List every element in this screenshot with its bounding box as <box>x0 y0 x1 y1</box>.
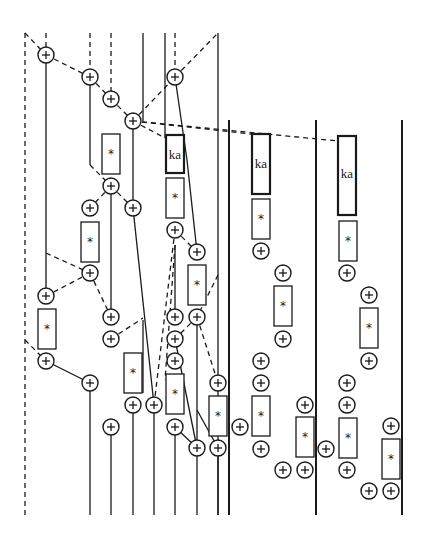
svg-text:*: * <box>130 366 136 380</box>
multiplier-block: * <box>166 374 184 414</box>
adder-node-icon <box>38 47 54 63</box>
svg-text:*: * <box>388 452 394 466</box>
adder-node-icon <box>361 353 377 369</box>
svg-text:*: * <box>215 409 221 423</box>
ka-block: ka <box>166 135 184 173</box>
svg-text:*: * <box>345 234 351 248</box>
adder-node-icon <box>339 265 355 281</box>
adder-node-icon <box>38 288 54 304</box>
adder-node-icon <box>82 69 98 85</box>
adder-node-icon <box>125 200 141 216</box>
adder-node-icon <box>189 244 205 260</box>
multiplier-block: * <box>360 308 378 348</box>
adder-node-icon <box>189 309 205 325</box>
multiplier-block: * <box>81 222 99 262</box>
adder-node-icon <box>103 419 119 435</box>
adder-node-icon <box>253 375 269 391</box>
multiplier-block: * <box>382 439 400 479</box>
multiplier-block: * <box>166 178 184 218</box>
multiplier-block: * <box>252 396 270 436</box>
adder-node-icon <box>167 309 183 325</box>
adder-node-icon <box>210 375 226 391</box>
signal-flow-diagram: * * * * * * * * * * * * * * * * ka ka ka <box>0 0 421 536</box>
svg-text:*: * <box>366 321 372 335</box>
adder-node-icon <box>103 309 119 325</box>
multiplier-block: * <box>102 134 120 174</box>
svg-text:*: * <box>108 147 114 161</box>
adder-node-icon <box>82 200 98 216</box>
multiplier-block: * <box>124 353 142 393</box>
svg-text:*: * <box>194 278 200 292</box>
multiplier-block: * <box>209 396 227 436</box>
multiplier-block: * <box>339 221 357 261</box>
adder-node-icon <box>339 375 355 391</box>
adder-node-icon <box>189 440 205 456</box>
adder-node-icon <box>339 462 355 478</box>
adder-node-icon <box>339 397 355 413</box>
adder-node-icon <box>167 69 183 85</box>
multiplier-block: * <box>274 286 292 326</box>
adder-node-icon <box>103 331 119 347</box>
adder-node-icon <box>103 178 119 194</box>
adder-node-icon <box>167 331 183 347</box>
adder-node-icon <box>103 91 119 107</box>
multiplier-block: * <box>188 265 206 305</box>
adder-node-icon <box>253 243 269 259</box>
svg-text:ka: ka <box>255 156 268 171</box>
svg-text:*: * <box>44 322 50 336</box>
adder-node-icon <box>146 397 162 413</box>
adder-node-icon <box>383 483 399 499</box>
multiplier-block: * <box>339 418 357 458</box>
ka-block: ka <box>252 134 270 194</box>
adder-node-icon <box>275 462 291 478</box>
adder-node-icon <box>275 331 291 347</box>
svg-text:*: * <box>172 191 178 205</box>
svg-text:*: * <box>345 431 351 445</box>
adder-node-icon <box>253 353 269 369</box>
ka-block: ka <box>338 136 356 215</box>
adder-node-icon <box>297 397 313 413</box>
svg-text:ka: ka <box>169 147 182 162</box>
adder-node-icon <box>125 397 141 413</box>
svg-text:*: * <box>172 387 178 401</box>
adder-node-icon <box>275 265 291 281</box>
adder-node-icon <box>361 483 377 499</box>
svg-text:*: * <box>280 299 286 313</box>
svg-text:*: * <box>302 430 308 444</box>
adder-node-icon <box>167 353 183 369</box>
adder-node-icon <box>82 265 98 281</box>
svg-text:*: * <box>258 409 264 423</box>
adder-node-icon <box>167 222 183 238</box>
adder-node-icon <box>167 419 183 435</box>
adder-node-icon <box>318 441 334 457</box>
dashed-connections <box>25 33 338 405</box>
adder-node-icon <box>210 440 226 456</box>
multiplier-block: * <box>296 417 314 457</box>
adder-node-icon <box>361 287 377 303</box>
svg-text:*: * <box>258 212 264 226</box>
adder-node-icon <box>232 419 248 435</box>
adder-node-icon <box>82 375 98 391</box>
multiplier-block: * <box>252 199 270 239</box>
adder-node-icon <box>125 113 141 129</box>
svg-text:ka: ka <box>341 166 354 181</box>
adder-node-icon <box>253 441 269 457</box>
multiplier-block: * <box>38 309 56 349</box>
adder-node-icon <box>38 353 54 369</box>
adder-node-icon <box>383 418 399 434</box>
adder-node-icon <box>297 462 313 478</box>
svg-text:*: * <box>87 235 93 249</box>
